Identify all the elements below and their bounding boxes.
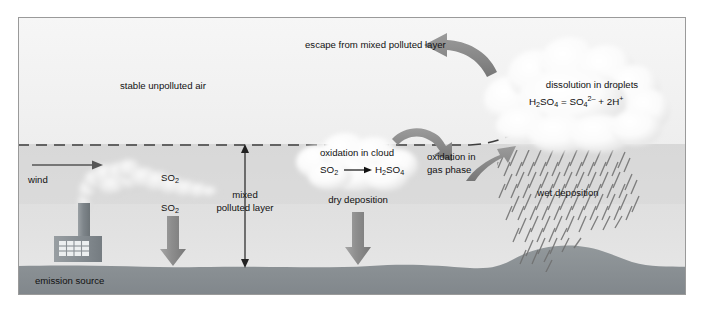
factory-windows	[59, 241, 89, 256]
dissolution-label: dissolution in droplets	[546, 79, 638, 90]
wet-deposition-label: wet deposition	[536, 187, 598, 198]
acid-deposition-diagram: stable unpolluted air escape from mixed …	[0, 0, 703, 319]
escape-label: escape from mixed polluted layer	[305, 39, 447, 50]
oxidation-gas-phase-label-line1: oxidation in	[427, 151, 476, 162]
figure-canvas: stable unpolluted air escape from mixed …	[0, 0, 703, 319]
mixed-layer-label-line1: mixed	[232, 189, 258, 200]
oxidation-gas-phase-label-line2: gas phase	[427, 164, 471, 175]
scene: stable unpolluted air escape from mixed …	[18, 17, 690, 300]
dry-deposition-label: dry deposition	[328, 194, 388, 205]
wind-label: wind	[27, 174, 48, 185]
mixed-layer-label-line2: polluted layer	[216, 202, 274, 213]
stable-air-label: stable unpolluted air	[120, 80, 207, 91]
emission-source-label: emission source	[35, 275, 104, 286]
oxidation-in-cloud-label: oxidation in cloud	[320, 147, 394, 158]
